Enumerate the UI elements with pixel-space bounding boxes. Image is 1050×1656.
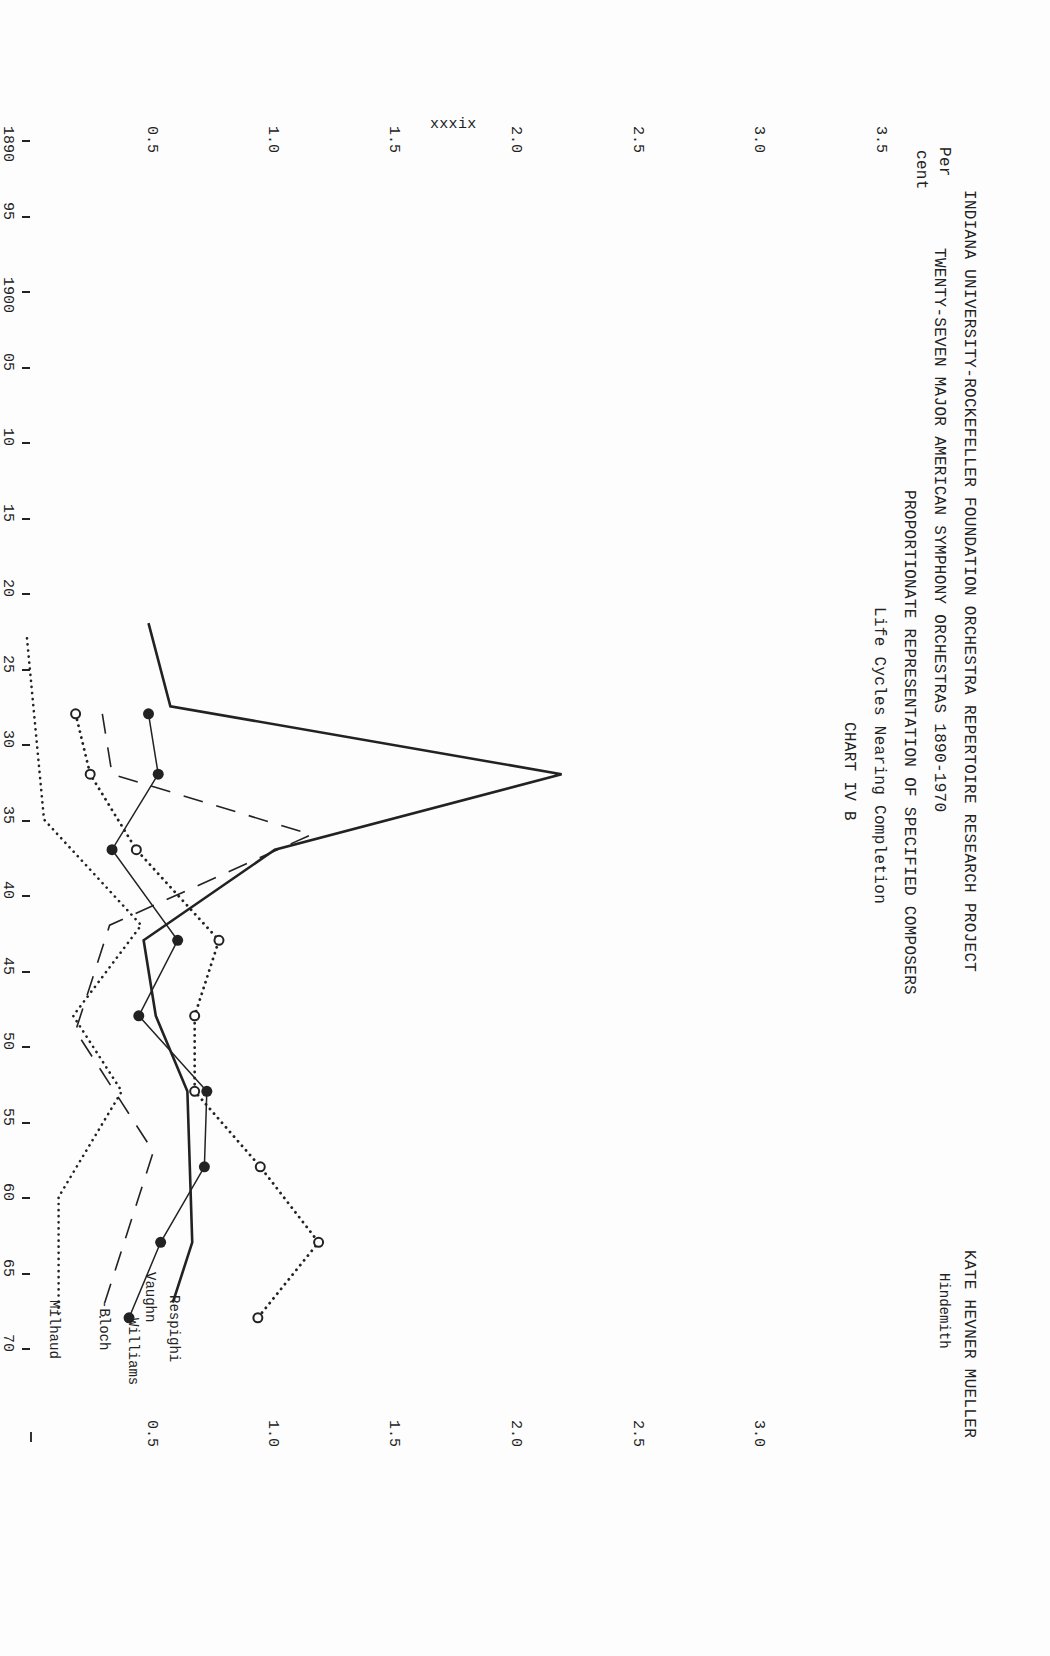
series-milhaud xyxy=(27,638,141,1318)
legend-vaughn: Vaughn xyxy=(142,1272,158,1322)
data-point-marker xyxy=(199,1161,210,1172)
data-point-marker xyxy=(201,1086,212,1097)
data-point-marker xyxy=(253,1313,262,1322)
data-point-marker xyxy=(107,844,118,855)
line-plot xyxy=(0,0,1050,1656)
data-point-marker xyxy=(155,1237,166,1248)
data-point-marker xyxy=(214,936,223,945)
data-point-marker xyxy=(71,709,80,718)
legend-hindemith: Hindemith xyxy=(936,1273,952,1349)
legend-bloch: -Bloch xyxy=(96,1300,112,1350)
data-point-marker xyxy=(314,1238,323,1247)
legend-milhaud: Milhaud xyxy=(46,1300,62,1359)
data-point-marker xyxy=(86,770,95,779)
data-point-marker xyxy=(190,1011,199,1020)
data-point-marker xyxy=(143,708,154,719)
chart-page: INDIANA UNIVERSITY-ROCKEFELLER FOUNDATIO… xyxy=(0,0,1050,1656)
data-point-marker xyxy=(172,935,183,946)
data-point-marker xyxy=(256,1162,265,1171)
data-point-marker xyxy=(132,845,141,854)
series-respighi xyxy=(144,623,562,1302)
legend-respighi: Respighi xyxy=(166,1295,182,1362)
data-point-marker xyxy=(190,1087,199,1096)
axis-end-mark xyxy=(30,1432,32,1442)
data-point-marker xyxy=(153,769,164,780)
data-point-marker xyxy=(133,1010,144,1021)
legend-williams: Williams xyxy=(125,1318,141,1385)
